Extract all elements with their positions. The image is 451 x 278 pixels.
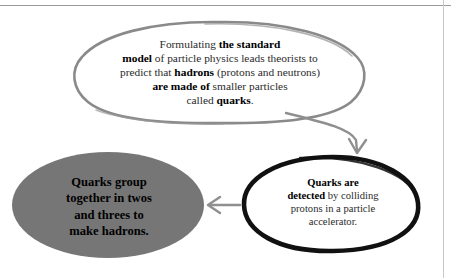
text-run: by colliding xyxy=(325,190,379,201)
text-run-bold: and threes to xyxy=(74,208,144,222)
text-run-bold: hadrons xyxy=(174,66,214,78)
text-line: and threes to xyxy=(22,207,196,223)
text-line: accelerator. xyxy=(258,216,408,229)
node-standard-model-text: Formulating the standardmodel of particl… xyxy=(92,38,348,108)
text-run: . xyxy=(251,94,254,106)
text-run: predict that xyxy=(120,66,174,78)
text-run-bold: make hadrons. xyxy=(69,224,149,238)
text-line: predict that hadrons (protons and neutro… xyxy=(92,66,348,80)
text-line: detected by colliding xyxy=(258,190,408,203)
text-line: Formulating the standard xyxy=(92,38,348,52)
text-run-bold: detected xyxy=(287,190,325,201)
text-run-bold: quarks xyxy=(216,94,250,106)
text-run-bold: Quarks group xyxy=(71,175,147,189)
text-run-bold: the standard xyxy=(219,38,281,50)
text-line: protons in a particle xyxy=(258,203,408,216)
node-detected-text: Quarks aredetected by collidingprotons i… xyxy=(258,177,408,229)
text-line: Quarks are xyxy=(258,177,408,190)
text-line: Quarks group xyxy=(22,174,196,190)
text-line: make hadrons. xyxy=(22,223,196,239)
text-line: model of particle physics leads theorist… xyxy=(92,52,348,66)
text-run-bold: Quarks are xyxy=(307,177,358,188)
text-run: Formulating xyxy=(160,38,219,50)
text-line: together in twos xyxy=(22,190,196,206)
text-run: (protons and neutrons) xyxy=(214,66,320,78)
text-run: accelerator. xyxy=(309,216,358,227)
text-run: protons in a particle xyxy=(291,203,375,214)
text-run-bold: model xyxy=(122,52,152,64)
diagram-page: Formulating the standardmodel of particl… xyxy=(0,0,451,278)
text-run: of particle physics leads theorists to xyxy=(152,52,318,64)
text-line: called quarks. xyxy=(92,94,348,108)
node-group-text: Quarks grouptogether in twosand threes t… xyxy=(22,174,196,239)
text-run-bold: are made of xyxy=(152,80,209,92)
text-run-bold: together in twos xyxy=(66,191,152,205)
text-run: smaller particles xyxy=(210,80,288,92)
text-line: are made of smaller particles xyxy=(92,80,348,94)
text-run: called xyxy=(186,94,216,106)
